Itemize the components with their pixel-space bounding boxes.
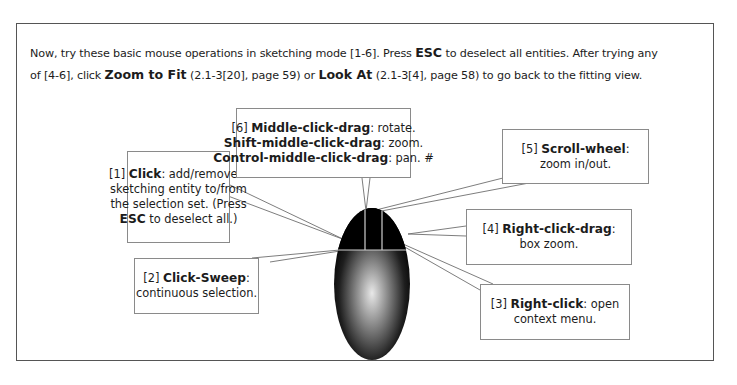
callout-colon: : (626, 142, 630, 156)
callout-action: Scroll-wheel (541, 142, 625, 156)
callout-number: [3] (491, 297, 511, 311)
callout-action: Right-click (511, 297, 584, 311)
esc-key-label: ESC (120, 212, 146, 226)
callout-action: Click (129, 167, 162, 181)
callout-colon: : (246, 271, 250, 285)
mouse-icon (330, 205, 414, 360)
callout-action: Right-click-drag (502, 222, 612, 236)
callout-number: [5] (521, 142, 541, 156)
callout-desc: to deselect all.) (146, 212, 238, 226)
callout-desc: : add/remove a (161, 167, 248, 181)
callout-desc: : open (583, 297, 619, 311)
callout-action: Click-Sweep (163, 271, 246, 285)
callout-desc: zoom in/out. (540, 157, 611, 172)
callout-action: Control-middle-click-drag (213, 151, 388, 165)
callout-scroll-wheel: [5] Scroll-wheel: zoom in/out. (502, 129, 649, 184)
callout-desc: box zoom. (520, 237, 579, 252)
callout-number: [1] (109, 167, 129, 181)
callout-number: [4] (482, 222, 502, 236)
callout-desc: the selection set. (Press (110, 197, 246, 212)
callout-desc: : rotate. (370, 121, 415, 135)
callout-number: [6] (231, 121, 251, 135)
callout-desc: : pan. # (388, 151, 434, 165)
callout-desc: sketching entity to/from (110, 182, 247, 197)
callout-right-click: [3] Right-click: open context menu. (480, 284, 630, 340)
callout-action: Shift-middle-click-drag (224, 136, 381, 150)
callout-action: Middle-click-drag (251, 121, 370, 135)
callout-number: [2] (143, 271, 163, 285)
callout-click-sweep: [2] Click-Sweep: continuous selection. (134, 258, 259, 314)
callout-middle-click-drag: [6] Middle-click-drag: rotate. Shift-mid… (236, 108, 411, 178)
callout-desc: : zoom. (381, 136, 423, 150)
callout-desc: context menu. (514, 312, 597, 327)
callout-right-click-drag: [4] Right-click-drag: box zoom. (466, 209, 632, 265)
callout-desc: continuous selection. (136, 286, 257, 301)
callout-colon: : (612, 222, 616, 236)
